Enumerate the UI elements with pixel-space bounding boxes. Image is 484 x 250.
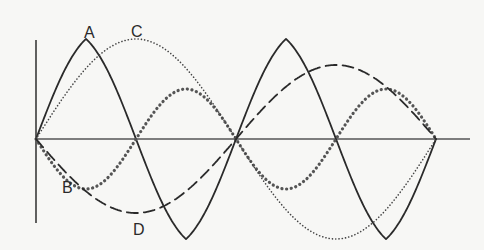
wave-label-c: C: [131, 23, 143, 40]
wave-label-b: B: [62, 179, 73, 196]
wave-diagram: ACBD: [0, 0, 484, 250]
wave-label-d: D: [133, 221, 145, 238]
wave-label-a: A: [84, 24, 95, 41]
